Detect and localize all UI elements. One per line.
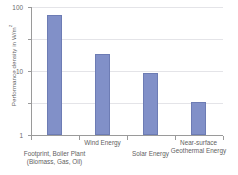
x-category-label-1: Wind Energy	[64, 139, 142, 147]
bar-3	[191, 102, 206, 135]
y-axis-title-superscript: 2	[8, 25, 13, 28]
performance-density-bar-chart: Performance density in W/m2 1001010.10.0…	[0, 0, 238, 175]
y-tick-label-100: 100	[12, 4, 23, 11]
bar-2	[143, 73, 158, 135]
y-tick-label-10: 10	[16, 68, 23, 75]
y-tick-label-1: 1	[19, 132, 23, 139]
y-tick-mark-1: 1	[28, 71, 31, 72]
y-tick-mark-100: 100	[28, 7, 31, 8]
plot-area: 1001010.10.01	[31, 7, 223, 136]
x-tick-0	[31, 136, 32, 140]
bar-1	[95, 54, 110, 135]
x-category-label-0: Footprint, Boiler Plant (Biomass, Gas, O…	[16, 150, 94, 166]
y-axis-title: Performance density in W/m2	[10, 6, 17, 126]
bar-0	[47, 15, 62, 135]
y-tick-mark-10: 10	[28, 39, 31, 40]
gridline-100	[32, 7, 223, 8]
x-category-label-3: Near-surface Geothermal Energy	[160, 139, 238, 155]
y-tick-mark-0.1: 0.1	[28, 103, 31, 104]
